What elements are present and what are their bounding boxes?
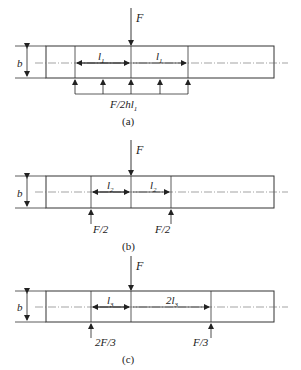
reaction-label-left: F/2 [92, 223, 109, 235]
caption: (a) [122, 115, 135, 128]
width-label: b [17, 301, 23, 313]
load-label: F/2hl1 [109, 98, 137, 113]
force-label: F [135, 11, 144, 25]
reaction-label-right: F/3 [192, 336, 209, 348]
width-label: b [17, 57, 23, 69]
caption: (b) [122, 240, 135, 253]
force-label: F [135, 259, 144, 273]
panel-a: b l1 l1 F F/2hl1 (a) [15, 8, 288, 128]
panel-b: b l2 l2 F F/2 F/2 (b) [15, 140, 288, 253]
reaction-label-right: F/2 [154, 223, 171, 235]
caption: (c) [122, 353, 135, 366]
reaction-label-left: 2F/3 [95, 336, 116, 348]
beam-loading-diagram: b l1 l1 F F/2hl1 (a) b [0, 0, 301, 370]
beam [46, 291, 274, 322]
width-label: b [17, 187, 23, 199]
force-label: F [135, 143, 144, 157]
panel-c: b l3 2l3 F 2F/3 F/3 (c) [15, 256, 288, 366]
